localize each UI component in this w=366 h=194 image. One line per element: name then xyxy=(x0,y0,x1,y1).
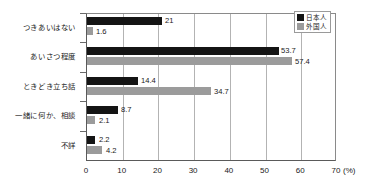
bar-value-fg-3: 2.1 xyxy=(99,117,110,125)
xtick-label-30: 30 xyxy=(183,166,203,176)
xtick-label-0: 0 xyxy=(76,166,96,176)
bar-jp-0 xyxy=(87,17,162,25)
category-label-2: ときどき立ち話 xyxy=(23,82,76,91)
category-label-1: あいさつ程度 xyxy=(30,52,76,61)
bar-value-fg-2: 34.7 xyxy=(214,88,229,96)
legend-item-fg: 外国人 xyxy=(297,22,328,31)
bar-fg-3 xyxy=(87,116,95,124)
bar-value-jp-4: 2.2 xyxy=(99,136,110,144)
bar-value-jp-0: 21 xyxy=(165,17,173,25)
gridline-40 xyxy=(230,14,231,160)
ytick-2 xyxy=(80,72,86,73)
xtick-label-10: 10 xyxy=(112,166,132,176)
bar-jp-4 xyxy=(87,136,95,144)
gridline-60 xyxy=(301,14,302,160)
x-axis-unit-label: (%) xyxy=(343,166,355,176)
category-label-4: 不詳 xyxy=(61,141,76,150)
bar-jp-2 xyxy=(87,77,138,85)
bar-fg-4 xyxy=(87,146,102,154)
category-label-0: つきあいはない xyxy=(23,23,76,32)
legend-label-fg: 外国人 xyxy=(306,23,328,30)
bar-jp-1 xyxy=(87,47,279,55)
xtick-label-40: 40 xyxy=(219,166,239,176)
bar-value-jp-3: 8.7 xyxy=(121,106,132,114)
ytick-4 xyxy=(80,131,86,132)
gridline-50 xyxy=(266,14,267,160)
bar-value-jp-2: 14.4 xyxy=(141,77,156,85)
bar-value-fg-0: 1.6 xyxy=(96,28,107,36)
legend-item-jp: 日本人 xyxy=(297,13,328,22)
ytick-1 xyxy=(80,42,86,43)
xtick-label-50: 50 xyxy=(255,166,275,176)
ytick-3 xyxy=(80,101,86,102)
ytick-0 xyxy=(80,13,86,14)
bar-fg-2 xyxy=(87,87,211,95)
legend-swatch-icon-fg xyxy=(297,23,304,30)
legend-label-jp: 日本人 xyxy=(306,14,328,21)
xtick-label-60: 60 xyxy=(290,166,310,176)
bar-value-fg-4: 4.2 xyxy=(106,147,117,155)
legend-swatch-icon-jp xyxy=(297,14,304,21)
bar-value-jp-1: 53.7 xyxy=(281,47,296,55)
bar-value-fg-1: 57.4 xyxy=(295,58,310,66)
bar-jp-3 xyxy=(87,106,118,114)
horizontal-bar-chart: つきあいはない あいさつ程度 ときどき立ち話 一緒に何か、相談 不詳 21 1.… xyxy=(0,0,366,194)
category-label-3: 一緒に何か、相談 xyxy=(15,111,76,120)
xtick-label-20: 20 xyxy=(147,166,167,176)
legend: 日本人 外国人 xyxy=(294,11,331,33)
bar-fg-1 xyxy=(87,57,292,65)
bar-fg-0 xyxy=(87,27,93,35)
